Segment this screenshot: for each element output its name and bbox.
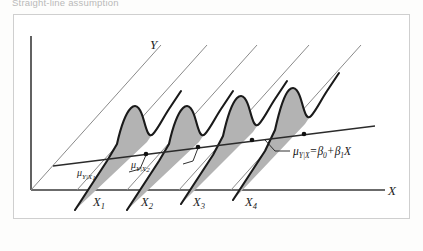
mean-label-x2: μY|X2 bbox=[130, 159, 150, 174]
svg-text:X1: X1 bbox=[92, 195, 105, 211]
x-axis-label: X bbox=[387, 183, 397, 198]
tick-x3-sub: 3 bbox=[200, 201, 205, 211]
tick-x2-sub: 2 bbox=[149, 201, 154, 211]
svg-text:X4: X4 bbox=[244, 195, 258, 211]
tick-label-x3: X3 bbox=[192, 195, 205, 211]
y-axis-label: Y bbox=[150, 37, 159, 52]
tick-label-x2: X2 bbox=[140, 195, 154, 211]
mean-point-x3 bbox=[250, 138, 255, 143]
svg-text:μY|X2: μY|X2 bbox=[130, 159, 150, 174]
figure-container: Straight-line assumption bbox=[0, 0, 423, 251]
svg-text:μY|X1: μY|X1 bbox=[76, 167, 96, 182]
tick-x4-sub: 4 bbox=[253, 201, 258, 211]
tick-label-x4: X4 bbox=[244, 195, 258, 211]
svg-text:X3: X3 bbox=[192, 195, 205, 211]
eq-equals: = bbox=[310, 145, 318, 157]
mu-x1-sub: 1 bbox=[92, 174, 96, 182]
tick-x1-sub: 1 bbox=[101, 201, 105, 211]
tick-label-x1: X1 bbox=[92, 195, 105, 211]
mean-point-x4 bbox=[302, 132, 307, 137]
svg-text:μY|X=β0+β1X: μY|X=β0+β1X bbox=[292, 145, 352, 160]
mean-label-x1: μY|X1 bbox=[76, 167, 96, 182]
straight-line-assumption-plot: Y X X1 X2 X3 X4 bbox=[13, 14, 410, 219]
mu-x2-sub: 2 bbox=[146, 166, 150, 174]
eq-cond: Y|X bbox=[299, 151, 310, 160]
figure-caption: Straight-line assumption bbox=[12, 0, 312, 9]
eq-plus: + bbox=[327, 145, 335, 157]
eq-x: X bbox=[343, 145, 352, 157]
svg-text:X2: X2 bbox=[140, 195, 154, 211]
regression-equation-label: μY|X=β0+β1X bbox=[292, 145, 352, 160]
